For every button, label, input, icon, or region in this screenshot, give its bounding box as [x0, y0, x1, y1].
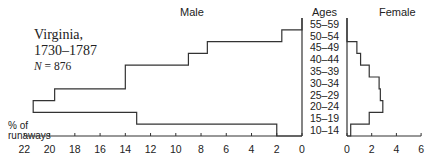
male-axis-tick-label: 22: [19, 143, 31, 155]
male-axis-tick-label: 10: [170, 143, 182, 155]
male-axis-tick-label: 8: [198, 143, 204, 155]
male-axis-tick-label: 2: [274, 143, 280, 155]
age-group-label: 40–44: [310, 53, 339, 65]
male-axis-tick-label: 20: [44, 143, 56, 155]
male-axis-tick-label: 12: [145, 143, 157, 155]
male-axis-tick-label: 6: [223, 143, 229, 155]
age-group-label: 55–59: [310, 18, 339, 30]
male-distribution-outline: [33, 18, 302, 136]
female-distribution-outline: [347, 18, 383, 136]
male-axis-tick-label: 18: [69, 143, 81, 155]
female-axis-tick-label: 4: [393, 143, 399, 155]
age-group-label: 10–14: [310, 124, 339, 136]
age-group-label: 35–39: [310, 65, 339, 77]
female-axis-tick-label: 6: [418, 143, 424, 155]
age-group-label: 50–54: [310, 30, 339, 42]
age-group-label: 15–19: [310, 112, 339, 124]
female-axis-tick-label: 0: [344, 143, 350, 155]
male-axis-tick-label: 16: [94, 143, 106, 155]
female-axis-tick-label: 2: [369, 143, 375, 155]
male-axis-tick-label: 0: [299, 143, 305, 155]
age-group-label: 20–24: [310, 100, 339, 112]
male-axis-tick-label: 14: [119, 143, 131, 155]
age-group-label: 45–49: [310, 41, 339, 53]
age-group-label: 25–29: [310, 89, 339, 101]
male-axis-tick-label: 4: [249, 143, 255, 155]
age-group-label: 30–34: [310, 77, 339, 89]
pyramid-chart: 10–1415–1920–2425–2930–3435–3940–4445–49…: [0, 0, 434, 163]
